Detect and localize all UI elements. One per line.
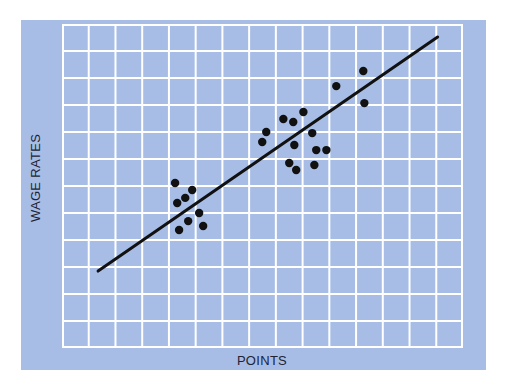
data-point xyxy=(290,141,298,149)
data-point xyxy=(322,146,330,154)
data-point xyxy=(285,159,293,167)
data-point xyxy=(195,209,203,217)
data-point xyxy=(359,67,367,75)
data-point xyxy=(199,222,207,230)
data-point xyxy=(332,82,340,90)
data-point xyxy=(258,138,266,146)
data-point xyxy=(175,226,183,234)
data-point xyxy=(360,99,368,107)
data-point xyxy=(310,161,318,169)
data-point xyxy=(289,118,297,126)
data-point xyxy=(184,217,192,225)
data-point xyxy=(171,179,179,187)
data-point xyxy=(262,128,270,136)
trend-line xyxy=(98,37,438,271)
scatter-plot xyxy=(62,24,463,348)
data-point xyxy=(279,115,287,123)
x-axis-label: POINTS xyxy=(237,353,287,368)
data-point xyxy=(292,166,300,174)
data-point xyxy=(181,194,189,202)
data-point xyxy=(308,129,316,137)
data-point xyxy=(188,186,196,194)
plot-area xyxy=(62,24,463,348)
y-axis-label: WAGE RATES xyxy=(28,134,43,222)
data-point xyxy=(173,199,181,207)
data-point xyxy=(312,146,320,154)
data-point xyxy=(299,108,307,116)
